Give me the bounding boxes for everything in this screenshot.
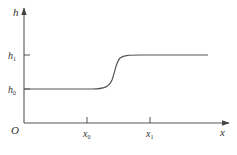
y-axis-label: h [13,6,19,18]
x-tick-label-x0: x0 [82,128,90,140]
y-tick-label-h0: h0 [8,84,16,96]
x-axis-label: x [219,126,225,138]
y-tick-label-h1: h1 [8,50,16,62]
step-curve-diagram: h x O h1 h0 x0 x1 [0,0,237,155]
x-tick-label-x1: x1 [145,128,153,140]
diagram-canvas: h x O h1 h0 x0 x1 [0,0,237,155]
origin-label: O [11,124,19,136]
transition-curve [24,55,208,89]
